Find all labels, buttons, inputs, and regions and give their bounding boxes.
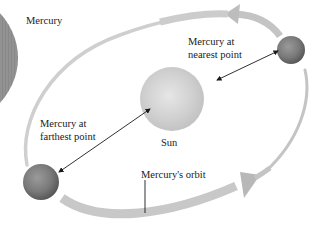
mercury-orbit-diagram: Mercury Mercury at nearest point Mercury…	[0, 0, 319, 237]
sun	[140, 67, 204, 131]
farthest-point-label-line1: Mercury at	[40, 118, 86, 129]
orbit-band-top	[235, 14, 280, 36]
nearest-point-label-line1: Mercury at	[188, 36, 234, 47]
sun-label: Sun	[161, 137, 178, 148]
orbit-band-top-left	[160, 14, 228, 22]
orbit-band-bottom	[62, 186, 236, 214]
orbit-band-right	[265, 70, 307, 172]
mercury-nearest-point	[277, 36, 305, 64]
farthest-point-label-line2: farthest point	[40, 131, 96, 142]
nearest-point-label-line2: nearest point	[188, 49, 242, 60]
mercury-surface-closeup	[0, 0, 18, 128]
orbit-band-bottom-right	[255, 168, 270, 178]
mercury-farthest-point	[23, 164, 59, 200]
mercury-label: Mercury	[26, 15, 63, 26]
orbit-label: Mercury's orbit	[141, 169, 206, 180]
